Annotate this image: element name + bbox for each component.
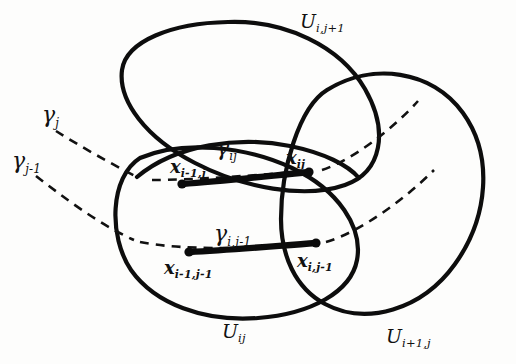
label-gamma-i-jminus1: γi,j-1 — [214, 223, 251, 245]
label-u-iplus1-j: Ui+1,j — [386, 327, 431, 346]
point-x-ij — [304, 167, 313, 176]
path-gamma-j-left — [56, 131, 137, 177]
label-x-i-jminus1: xi,j-1 — [297, 252, 333, 270]
label-gamma-jminus1: γj-1 — [12, 150, 41, 172]
label-x-iminus1-jminus1: xi-1,j-1 — [164, 259, 213, 277]
label-gamma-ij: γij — [216, 137, 237, 159]
figure-canvas: Ui,j+1 γj γj-1 γij xi-1,j xij γi,j-1 xi-… — [0, 0, 516, 364]
label-u-ij: Uij — [222, 322, 246, 341]
label-x-ij: xij — [286, 149, 305, 167]
point-x-iminus1-jminus1 — [184, 247, 193, 256]
point-x-iminus1-j — [177, 179, 186, 188]
region-curve-u-iplus1-j — [281, 74, 483, 314]
diagram-svg — [0, 0, 516, 364]
label-u-i-jplus1: Ui,j+1 — [300, 12, 345, 31]
point-x-i-jminus1 — [311, 238, 320, 247]
label-gamma-j: γj — [42, 104, 59, 126]
label-x-iminus1-j: xi-1,j — [170, 158, 206, 176]
